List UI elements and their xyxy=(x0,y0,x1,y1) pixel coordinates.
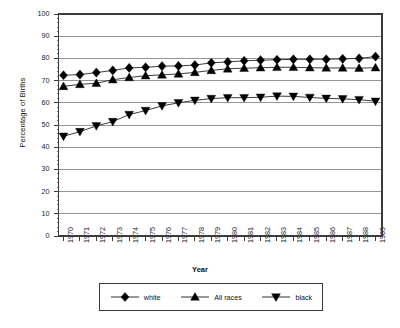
data-point xyxy=(59,133,68,141)
data-point xyxy=(371,63,380,71)
data-point xyxy=(142,63,150,72)
data-point xyxy=(338,64,347,72)
data-point xyxy=(125,111,134,119)
data-point xyxy=(322,55,330,64)
triangle-down-marker xyxy=(261,291,291,303)
data-point xyxy=(240,64,249,72)
triangle-up-marker xyxy=(180,291,210,303)
series-white xyxy=(60,52,380,80)
data-point xyxy=(322,64,331,72)
chart-container: Percentage of Births Year 01020304050607… xyxy=(0,0,400,328)
data-point xyxy=(256,63,265,71)
plot-area xyxy=(0,0,400,328)
legend-label: white xyxy=(144,293,161,302)
legend-label: All races xyxy=(214,293,242,302)
legend-item-all-races[interactable]: All races xyxy=(180,291,242,303)
data-point xyxy=(355,64,364,72)
data-point xyxy=(60,71,68,80)
data-point xyxy=(289,63,298,71)
diamond-marker xyxy=(110,291,140,303)
data-point xyxy=(92,68,100,77)
legend-label: black xyxy=(295,293,312,302)
legend-item-black[interactable]: black xyxy=(261,291,312,303)
chart-legend: whiteAll racesblack xyxy=(99,283,323,311)
data-point xyxy=(273,63,282,71)
legend-item-white[interactable]: white xyxy=(110,291,161,303)
grid-lines xyxy=(59,14,383,236)
data-point xyxy=(306,55,314,64)
series-black xyxy=(59,93,380,141)
data-point xyxy=(339,54,347,63)
y-axis-ticks xyxy=(54,14,59,236)
data-point xyxy=(158,62,166,71)
data-point xyxy=(125,63,133,72)
data-point xyxy=(109,66,117,75)
data-point xyxy=(305,63,314,71)
data-point xyxy=(372,52,380,61)
x-axis-ticks xyxy=(64,236,376,241)
series-all-races xyxy=(59,63,380,90)
data-point xyxy=(76,70,84,79)
data-point xyxy=(371,98,380,106)
data-point xyxy=(355,54,363,63)
data-point xyxy=(322,95,331,103)
data-point xyxy=(92,123,101,131)
data-point xyxy=(256,94,265,102)
data-point xyxy=(240,94,249,102)
